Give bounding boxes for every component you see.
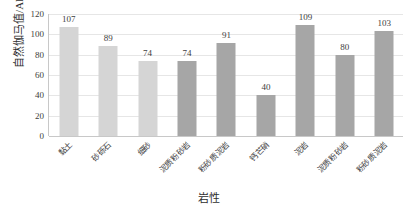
x-axis-title: 岩性 xyxy=(0,192,418,205)
x-label-slot: 钙芒硝 xyxy=(245,137,284,193)
y-axis-tick-labels: 020406080100120 xyxy=(18,14,44,136)
x-label-slot: 粉砂质泥岩 xyxy=(206,137,245,193)
bar-value-label: 103 xyxy=(378,19,392,28)
y-tick-label: 40 xyxy=(18,91,44,100)
x-label-slot: 黏土 xyxy=(48,137,87,193)
bar-slot: 107 xyxy=(49,14,88,136)
x-tick-label: 钙芒硝 xyxy=(248,140,271,163)
bar-slot: 40 xyxy=(246,14,285,136)
x-label-slot: 砂砾石 xyxy=(87,137,126,193)
bar-value-label: 74 xyxy=(143,49,152,58)
bar-value-label: 89 xyxy=(104,34,113,43)
bar[interactable] xyxy=(59,27,78,136)
bar-chart: 自然伽马值/API 020406080100120 10789747491401… xyxy=(0,0,418,217)
x-label-slot: 粉砂质泥岩 xyxy=(364,137,403,193)
y-tick-label: 100 xyxy=(18,30,44,39)
bar[interactable] xyxy=(335,55,354,136)
bar-slot: 74 xyxy=(128,14,167,136)
bar-slot: 103 xyxy=(365,14,404,136)
bar[interactable] xyxy=(256,95,275,136)
bar-value-label: 80 xyxy=(340,43,349,52)
x-tick-label: 泥岩 xyxy=(293,140,311,158)
plot-area: 107897474914010980103 xyxy=(48,14,403,136)
bar[interactable] xyxy=(296,25,315,136)
y-tick-label: 80 xyxy=(18,50,44,59)
bar-slot: 89 xyxy=(88,14,127,136)
bar[interactable] xyxy=(138,61,157,136)
bar-slot: 80 xyxy=(325,14,364,136)
bar[interactable] xyxy=(178,61,197,136)
x-axis-category-labels: 黏土砂砾石细砂泥质粉砂岩粉砂质泥岩钙芒硝泥岩泥质粉砂岩粉砂质泥岩 xyxy=(48,137,403,193)
bar[interactable] xyxy=(99,46,118,136)
x-tick-label: 砂砾石 xyxy=(90,140,113,163)
bar-value-label: 107 xyxy=(62,15,76,24)
bar-value-label: 109 xyxy=(299,13,313,22)
bar[interactable] xyxy=(375,31,394,136)
bar[interactable] xyxy=(217,43,236,136)
bar-value-label: 74 xyxy=(183,49,192,58)
bar-value-label: 40 xyxy=(261,83,270,92)
y-tick-label: 20 xyxy=(18,111,44,120)
x-tick-label: 黏土 xyxy=(56,140,74,158)
bar-slot: 91 xyxy=(207,14,246,136)
bar-slot: 109 xyxy=(286,14,325,136)
y-tick-label: 60 xyxy=(18,71,44,80)
x-tick-label: 细砂 xyxy=(135,140,153,158)
y-tick-label: 0 xyxy=(18,132,44,141)
y-tick-label: 120 xyxy=(18,10,44,19)
bar-series: 107897474914010980103 xyxy=(49,14,403,136)
bar-value-label: 91 xyxy=(222,31,231,40)
bar-slot: 74 xyxy=(167,14,206,136)
